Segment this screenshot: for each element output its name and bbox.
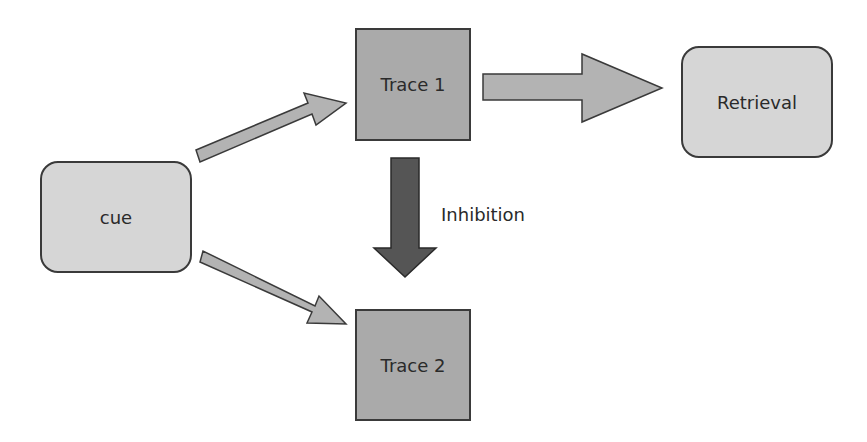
trace2-node: Trace 2	[355, 309, 471, 421]
arrow-trace1-to-retrieval	[483, 54, 662, 122]
cue-label: cue	[100, 207, 132, 228]
trace1-label: Trace 1	[381, 74, 446, 95]
trace2-label: Trace 2	[381, 355, 446, 376]
arrow-cue-to-trace2	[200, 251, 346, 324]
retrieval-label: Retrieval	[717, 92, 797, 113]
trace1-node: Trace 1	[355, 28, 471, 141]
inhibition-label: Inhibition	[441, 204, 525, 225]
retrieval-node: Retrieval	[681, 46, 833, 158]
cue-node: cue	[40, 161, 192, 273]
inhibition-arrow	[374, 158, 436, 277]
arrow-cue-to-trace1	[196, 93, 346, 162]
